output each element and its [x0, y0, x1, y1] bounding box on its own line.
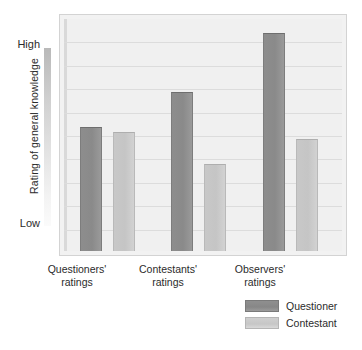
bar-contestant-0	[113, 132, 135, 251]
y-tick-label-low: Low	[0, 217, 40, 229]
plot-inner	[64, 19, 342, 251]
legend-label-contestant: Contestant	[286, 317, 337, 329]
y-tick-label-high: High	[0, 38, 40, 50]
bar-questioner-2	[263, 33, 285, 251]
legend-swatch-questioner	[245, 300, 279, 312]
x-axis-category-label: Contestants'ratings	[122, 263, 214, 289]
bar-contestant-1	[204, 164, 226, 251]
x-axis-category-label-line: Contestants'	[122, 263, 214, 276]
gridline	[64, 66, 342, 67]
x-axis-category-label-line: ratings	[31, 276, 123, 289]
gridline	[64, 113, 342, 114]
legend-item: Contestant	[245, 317, 337, 329]
legend-label-questioner: Questioner	[286, 300, 337, 312]
legend-item: Questioner	[245, 300, 337, 312]
chart-figure: Rating of general knowledge High Low Que…	[0, 0, 362, 350]
x-axis-category-label-line: ratings	[214, 276, 306, 289]
x-axis-category-label: Observers'ratings	[214, 263, 306, 289]
x-axis-category-label: Questioners'ratings	[31, 263, 123, 289]
x-axis-category-label-line: Observers'	[214, 263, 306, 276]
gridline	[64, 136, 342, 137]
y-axis-gradient-scale	[44, 48, 51, 226]
bar-questioner-0	[80, 127, 102, 251]
gridline	[64, 42, 342, 43]
y-axis-line	[64, 19, 67, 251]
bar-questioner-1	[171, 92, 193, 251]
legend-swatch-contestant	[245, 317, 279, 329]
gridline	[64, 89, 342, 90]
x-axis-category-label-line: Questioners'	[31, 263, 123, 276]
plot-area	[59, 14, 347, 256]
chart-legend: Questioner Contestant	[245, 300, 337, 334]
bar-contestant-2	[296, 139, 318, 251]
x-axis-category-label-line: ratings	[122, 276, 214, 289]
y-axis-title: Rating of general knowledge	[28, 26, 40, 226]
